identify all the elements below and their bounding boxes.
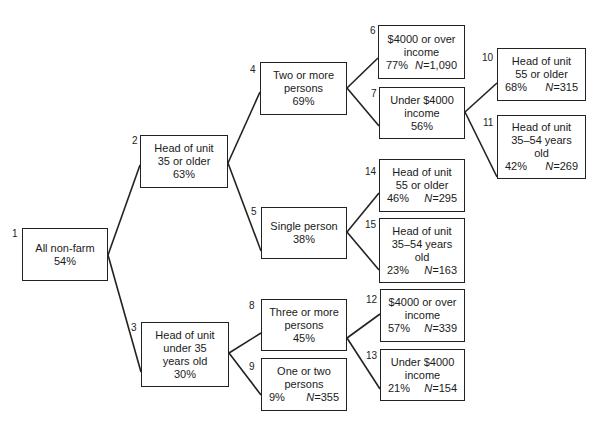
node-number-4: 4 xyxy=(250,64,256,75)
node-percent: 57% xyxy=(388,322,410,335)
node-label: 35–54 years xyxy=(383,238,461,251)
node-label: old xyxy=(383,251,461,264)
node-label: 35 or older xyxy=(144,155,224,168)
node-count: 154 xyxy=(439,382,457,394)
node-number-7: 7 xyxy=(371,88,377,99)
node-under-4000-income: Under $4000 income 56% xyxy=(379,87,465,139)
n-prefix: N= xyxy=(424,192,438,204)
edge-5-15 xyxy=(347,232,379,270)
node-all-non-farm: All non-farm 54% xyxy=(22,228,108,281)
edge-1-2 xyxy=(108,165,140,255)
node-7-head-35-54: Head of unit 35–54 years old 42%N=269 xyxy=(497,115,586,179)
node-number-5: 5 xyxy=(251,206,257,217)
edge-7-10 xyxy=(465,83,497,112)
node-head-under-35: Head of unit under 35 years old 30% xyxy=(141,322,229,387)
node-label: All non-farm xyxy=(26,242,104,255)
node-label: income xyxy=(383,107,461,120)
node-percent: 21% xyxy=(388,382,410,395)
node-5-head-55-or-older: Head of unit 55 or older 46%N=295 xyxy=(379,159,465,212)
node-number-10: 10 xyxy=(482,52,493,63)
node-count: 1,090 xyxy=(429,59,457,71)
edge-3-8 xyxy=(229,333,261,353)
node-number-3: 3 xyxy=(131,322,137,333)
node-label: Single person xyxy=(265,220,343,233)
node-8-4000-or-over-income: $4000 or over income 57%N=339 xyxy=(380,289,465,342)
node-label: $4000 or over xyxy=(382,33,461,46)
node-percent: 56% xyxy=(383,120,461,133)
node-number-11: 11 xyxy=(483,117,493,128)
edge-8-12 xyxy=(347,314,380,338)
node-head-35-or-older: Head of unit 35 or older 63% xyxy=(140,135,228,188)
node-percent: 63% xyxy=(144,168,224,181)
n-prefix: N= xyxy=(424,382,438,394)
node-label: One or two xyxy=(265,365,343,378)
node-label: income xyxy=(384,309,461,322)
node-label: Head of unit xyxy=(383,166,461,179)
node-single-person: Single person 38% xyxy=(261,207,347,259)
node-three-or-more-persons: Three or more persons 45% xyxy=(261,299,347,351)
edge-2-4 xyxy=(228,92,260,163)
node-number-1: 1 xyxy=(12,228,18,239)
node-percent: 23% xyxy=(387,264,409,277)
node-number-13: 13 xyxy=(366,350,377,361)
node-label: Under $4000 xyxy=(384,356,461,369)
n-prefix: N= xyxy=(306,391,320,403)
node-label: $4000 or over xyxy=(384,296,461,309)
edge-1-3 xyxy=(108,255,141,372)
node-number-9: 9 xyxy=(249,361,255,372)
node-count: 295 xyxy=(439,192,457,204)
node-percent: 54% xyxy=(26,255,104,268)
node-percent: 9% xyxy=(269,391,285,404)
node-7-head-55-or-older: Head of unit 55 or older 68%N=315 xyxy=(497,48,586,101)
node-number-15: 15 xyxy=(365,219,376,230)
node-4000-or-over-income: $4000 or over income 77%N=1,090 xyxy=(378,25,465,79)
node-number-6: 6 xyxy=(370,25,376,36)
node-label: Head of unit xyxy=(145,329,225,342)
node-two-or-more-persons: Two or more persons 69% xyxy=(260,62,347,115)
node-label: persons xyxy=(265,319,343,332)
node-label: Head of unit xyxy=(501,121,582,134)
node-label: 55 or older xyxy=(383,179,461,192)
node-number-2: 2 xyxy=(132,135,138,146)
node-label: persons xyxy=(265,378,343,391)
node-count: 339 xyxy=(439,322,457,334)
node-label: 55 or older xyxy=(501,68,582,81)
n-prefix: N= xyxy=(415,59,429,71)
node-label: years old xyxy=(145,355,225,368)
node-label: Three or more xyxy=(265,306,343,319)
node-percent: 45% xyxy=(265,332,343,345)
node-label: income xyxy=(382,46,461,59)
node-label: under 35 xyxy=(145,342,225,355)
n-prefix: N= xyxy=(545,160,559,172)
node-label: Head of unit xyxy=(144,142,224,155)
edge-4-6 xyxy=(347,58,378,88)
node-5-head-35-54: Head of unit 35–54 years old 23%N=163 xyxy=(379,218,465,283)
node-count: 163 xyxy=(439,264,457,276)
node-label: Head of unit xyxy=(501,55,582,68)
node-label: persons xyxy=(264,82,343,95)
node-label: 35–54 years xyxy=(501,134,582,147)
edge-3-9 xyxy=(229,353,261,395)
node-label: Two or more xyxy=(264,69,343,82)
edge-8-13 xyxy=(347,338,380,389)
n-prefix: N= xyxy=(545,81,559,93)
node-number-12: 12 xyxy=(366,294,377,305)
node-percent: 30% xyxy=(145,368,225,381)
node-percent: 42% xyxy=(505,160,527,173)
node-percent: 68% xyxy=(505,81,527,94)
node-percent: 46% xyxy=(387,192,409,205)
node-percent: 38% xyxy=(265,233,343,246)
n-prefix: N= xyxy=(424,322,438,334)
node-percent: 77% xyxy=(386,59,408,72)
n-prefix: N= xyxy=(424,264,438,276)
node-count: 315 xyxy=(560,81,578,93)
node-label: income xyxy=(384,369,461,382)
node-8-under-4000-income: Under $4000 income 21%N=154 xyxy=(380,349,465,401)
node-number-14: 14 xyxy=(365,166,376,177)
node-number-8: 8 xyxy=(249,300,255,311)
node-count: 269 xyxy=(560,160,578,172)
node-count: 355 xyxy=(321,391,339,403)
node-label: old xyxy=(501,147,582,160)
node-label: Under $4000 xyxy=(383,94,461,107)
node-percent: 69% xyxy=(264,95,343,108)
